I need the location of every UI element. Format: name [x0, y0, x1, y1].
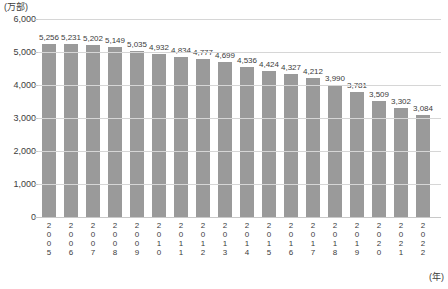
x-axis-tick-digit: 0: [328, 230, 342, 239]
x-axis-tick-digit: 2: [372, 221, 386, 230]
bar[interactable]: [130, 51, 144, 217]
x-axis-tick-digit: 0: [86, 239, 100, 248]
x-axis-tick-label: 2013: [218, 221, 232, 257]
x-axis-tick-digit: 9: [350, 248, 364, 257]
x-axis-tick-digit: 2: [108, 221, 122, 230]
y-axis-tick-label: 1,000: [2, 180, 36, 189]
bar[interactable]: [86, 45, 100, 217]
x-axis-tick-digit: 1: [174, 239, 188, 248]
x-axis-tick-digit: 1: [240, 239, 254, 248]
bar[interactable]: [262, 71, 276, 217]
x-axis-tick-label: 2012: [196, 221, 210, 257]
gridline: [38, 52, 441, 53]
bar[interactable]: [174, 57, 188, 217]
bar[interactable]: [64, 44, 78, 217]
x-axis-tick-digit: 1: [218, 239, 232, 248]
x-axis-tick-digit: 4: [240, 248, 254, 257]
x-axis-tick-digit: 0: [108, 239, 122, 248]
x-axis-tick-label: 2017: [306, 221, 320, 257]
x-axis-tick-label: 2006: [64, 221, 78, 257]
x-axis-tick-digit: 0: [372, 230, 386, 239]
x-axis-tick-digit: 2: [86, 221, 100, 230]
x-axis-tick-digit: 2: [64, 221, 78, 230]
bar-value-label: 4,424: [259, 60, 279, 69]
x-axis-tick-digit: 0: [284, 230, 298, 239]
x-axis-tick-digit: 0: [152, 248, 166, 257]
bar-value-label: 5,035: [127, 40, 147, 49]
x-axis-tick-digit: 0: [196, 230, 210, 239]
x-axis-tick-label: 2016: [284, 221, 298, 257]
bar[interactable]: [152, 54, 166, 217]
x-axis-tick-digit: 1: [174, 248, 188, 257]
x-axis-tick-digit: 0: [152, 230, 166, 239]
x-axis-tick-digit: 2: [328, 221, 342, 230]
y-axis-ticks: 6,0005,0004,0003,0002,0001,0000: [0, 0, 36, 289]
x-axis-tick-digit: 2: [416, 248, 430, 257]
x-axis-tick-digit: 0: [64, 230, 78, 239]
y-axis-tick-label: 3,000: [2, 114, 36, 123]
x-axis-tick-digit: 1: [152, 239, 166, 248]
x-axis-tick-digit: 0: [108, 230, 122, 239]
x-axis-tick-label: 2008: [108, 221, 122, 257]
x-axis-tick-digit: 2: [416, 239, 430, 248]
x-axis-tick-digit: 7: [86, 248, 100, 257]
x-axis-tick-digit: 2: [174, 221, 188, 230]
bar[interactable]: [394, 108, 408, 217]
x-axis-tick-digit: 2: [350, 221, 364, 230]
x-axis-tick-digit: 2: [130, 221, 144, 230]
x-axis-tick-digit: 2: [416, 221, 430, 230]
bar-value-label: 4,932: [149, 43, 169, 52]
x-axis-tick-digit: 2: [394, 221, 408, 230]
x-axis-tick-digit: 1: [350, 239, 364, 248]
x-axis-tick-digit: 2: [196, 221, 210, 230]
bar-chart: (万部) 6,0005,0004,0003,0002,0001,0000 5,2…: [0, 0, 448, 289]
bar[interactable]: [240, 67, 254, 217]
x-axis-tick-digit: 2: [372, 239, 386, 248]
x-axis-tick-digit: 6: [64, 248, 78, 257]
x-axis-tick-digit: 2: [196, 248, 210, 257]
x-axis-tick-digit: 0: [394, 230, 408, 239]
y-axis-tick-label: 6,000: [2, 15, 36, 24]
y-axis-tick-label: 2,000: [2, 147, 36, 156]
x-axis-tick-label: 2020: [372, 221, 386, 257]
gridline: [38, 118, 441, 119]
x-axis-tick-digit: 0: [240, 230, 254, 239]
bar[interactable]: [42, 44, 56, 217]
x-axis-tick-digit: 0: [130, 230, 144, 239]
x-axis-tick-digit: 8: [108, 248, 122, 257]
bar[interactable]: [350, 92, 364, 217]
x-axis-tick-digit: 0: [64, 239, 78, 248]
x-axis-tick-digit: 1: [306, 239, 320, 248]
bar[interactable]: [196, 59, 210, 217]
x-axis-tick-digit: 1: [394, 248, 408, 257]
y-axis-tick-label: 4,000: [2, 81, 36, 90]
bar-value-label: 3,509: [369, 90, 389, 99]
x-axis-tick-digit: 7: [306, 248, 320, 257]
bar[interactable]: [416, 115, 430, 217]
x-axis-tick-digit: 1: [196, 239, 210, 248]
x-axis-tick-digit: 1: [284, 239, 298, 248]
bar[interactable]: [306, 78, 320, 217]
x-axis-tick-digit: 1: [328, 239, 342, 248]
x-axis-tick-digit: 9: [130, 248, 144, 257]
bar-value-label: 5,149: [105, 36, 125, 45]
y-axis-tick-label: 5,000: [2, 48, 36, 57]
x-axis-tick-label: 2010: [152, 221, 166, 257]
x-axis-tick-digit: 2: [306, 221, 320, 230]
bar-value-label: 4,212: [303, 67, 323, 76]
x-axis-tick-label: 2011: [174, 221, 188, 257]
x-axis-tick-digit: 0: [130, 239, 144, 248]
bar[interactable]: [284, 74, 298, 217]
x-axis-unit-label: (年): [429, 272, 444, 282]
x-axis-tick-label: 2021: [394, 221, 408, 257]
x-axis-tick-digit: 0: [372, 248, 386, 257]
x-axis-tick-label: 2014: [240, 221, 254, 257]
bar-value-label: 3,084: [413, 104, 433, 113]
plot-area: 5,2565,2315,2025,1495,0354,9324,8344,777…: [38, 19, 441, 217]
gridline: [38, 151, 441, 152]
bar-value-label: 4,834: [171, 46, 191, 55]
bar-value-label: 5,256: [39, 33, 59, 42]
x-axis-tick-digit: 5: [42, 248, 56, 257]
bar[interactable]: [108, 47, 122, 217]
gridline: [38, 19, 441, 20]
